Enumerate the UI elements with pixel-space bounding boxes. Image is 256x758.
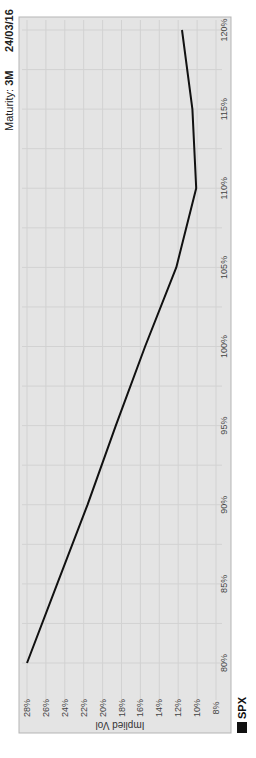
legend-swatch (237, 722, 247, 733)
y-tick-label: 12% (173, 699, 183, 717)
x-tick-label: 115% (219, 98, 229, 120)
y-tick-label: 24% (60, 699, 70, 717)
legend-label: SPX (236, 696, 248, 719)
y-tick-label: 22% (79, 699, 89, 717)
y-tick-label: 18% (117, 699, 127, 717)
y-tick-label: 26% (41, 699, 51, 717)
y-axis-label: Implied Vol (96, 720, 145, 731)
x-tick-label: 85% (219, 575, 229, 593)
x-tick-label: 90% (219, 496, 229, 514)
chart-panel (19, 17, 231, 733)
y-tick-label: 20% (98, 699, 108, 717)
x-tick-label: 80% (219, 654, 229, 672)
x-tick-label: 105% (219, 256, 229, 279)
x-tick-label: 110% (219, 177, 229, 199)
y-tick-label: 14% (154, 699, 164, 717)
x-tick-label: 100% (219, 335, 229, 358)
y-tick-label: 10% (192, 699, 202, 717)
x-tick-label: 120% (219, 18, 229, 41)
y-tick-label: 8% (211, 701, 221, 714)
x-tick-label: 95% (219, 417, 229, 435)
implied-vol-chart: 80%85%90%95%100%105%110%115%120% 8%10%12… (0, 0, 256, 758)
y-tick-label: 28% (22, 699, 32, 717)
y-tick-label: 16% (135, 699, 145, 717)
